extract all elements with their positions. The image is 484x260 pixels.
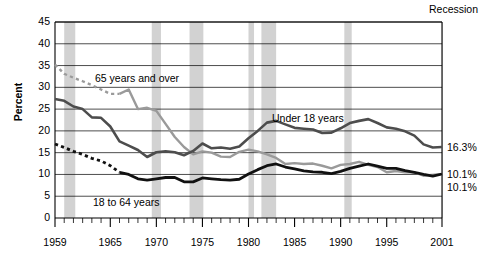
x-axis-tick-label: 1959: [35, 236, 75, 248]
series-end-label: 10.1%: [447, 168, 477, 180]
poverty-rate-chart: Percent Recession 051015202530354045 195…: [0, 0, 484, 260]
recession-bands-group: [64, 22, 443, 218]
x-axis-tick-label: 1990: [321, 236, 361, 248]
x-axis-tick-label: 1965: [90, 236, 130, 248]
x-axis-tick-label: 1985: [275, 236, 315, 248]
series-inline-label: Under 18 years: [272, 112, 344, 124]
recession-band: [344, 22, 351, 218]
series-end-label: 16.3%: [447, 141, 477, 153]
chart-plot-area: [0, 0, 484, 260]
x-axis-tick-label: 2001: [422, 236, 462, 248]
x-axis-ticks-group: [55, 218, 442, 227]
series-inline-label: 18 to 64 years: [93, 196, 160, 208]
series-end-label: 10.1%: [447, 181, 477, 193]
series-line-solid-2: [120, 164, 443, 182]
recession-band: [190, 22, 204, 218]
recession-band: [249, 22, 255, 218]
recession-band: [64, 22, 75, 218]
recession-band: [152, 22, 161, 218]
x-axis-tick-label: 1975: [182, 236, 222, 248]
series-inline-label: 65 years and over: [95, 72, 179, 84]
x-axis-tick-label: 1995: [367, 236, 407, 248]
x-axis-tick-label: 1970: [136, 236, 176, 248]
x-axis-tick-label: 1980: [229, 236, 269, 248]
series-line-solid-0: [120, 90, 443, 176]
